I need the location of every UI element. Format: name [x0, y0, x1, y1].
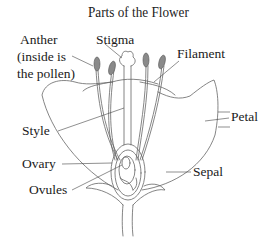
- label-style: Style: [22, 123, 50, 138]
- stigma: [120, 51, 136, 66]
- anther-right-2: [157, 54, 166, 69]
- label-filament: Filament: [177, 46, 225, 61]
- stem: [122, 205, 123, 236]
- left-petal: [42, 81, 118, 190]
- ovules: [122, 157, 130, 169]
- anther-left-2: [107, 60, 116, 75]
- label-petal: Petal: [231, 109, 258, 124]
- anther-leader: [72, 56, 93, 66]
- ovules-leader: [72, 165, 122, 190]
- label-ovary: Ovary: [22, 156, 56, 171]
- anther-left-1: [94, 57, 100, 71]
- ovary-leader: [62, 163, 112, 164]
- anther-right-1: [143, 53, 149, 67]
- label-stigma: Stigma: [96, 32, 134, 47]
- style-leader: [58, 108, 124, 131]
- label-anther-line2: (inside is: [17, 49, 66, 64]
- label-ovules: Ovules: [29, 182, 67, 197]
- label-anther-line1: Anther: [20, 32, 58, 47]
- label-anther-line3: the pollen): [17, 66, 75, 81]
- label-sepal: Sepal: [193, 164, 223, 179]
- filament-leader: [154, 61, 179, 82]
